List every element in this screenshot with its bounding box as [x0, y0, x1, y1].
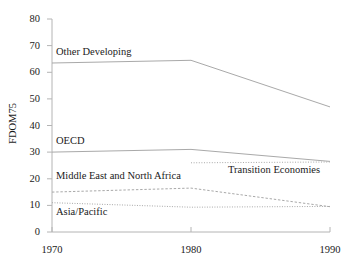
- line-chart: FDOM75 80 70 60 50 40 30 20 10 0 1970 19…: [0, 0, 355, 267]
- series-line-oecd: [52, 149, 330, 161]
- y-tick-label-30: 30: [18, 147, 40, 158]
- series-line-middle-east-north-africa: [52, 188, 330, 207]
- y-tick-label-80: 80: [18, 14, 40, 25]
- y-tick-label-20: 20: [18, 174, 40, 185]
- x-tick-label-1990: 1990: [310, 245, 350, 256]
- y-tick-label-40: 40: [18, 121, 40, 132]
- x-axis-ticks: [52, 227, 330, 232]
- series-label-transition-economies: Transition Economies: [228, 165, 320, 176]
- y-tick-label-0: 0: [18, 227, 40, 238]
- series-line-transition-economies: [191, 162, 330, 163]
- series-line-other-developing: [52, 60, 330, 107]
- x-tick-label-1970: 1970: [32, 245, 72, 256]
- y-tick-label-10: 10: [18, 200, 40, 211]
- series-label-middle-east-north-africa: Middle East and North Africa: [56, 171, 181, 182]
- y-tick-label-60: 60: [18, 67, 40, 78]
- series-label-oecd: OECD: [56, 136, 85, 147]
- series-label-other-developing: Other Developing: [56, 47, 132, 58]
- y-axis-title: FDOM75: [7, 94, 18, 154]
- y-tick-label-70: 70: [18, 41, 40, 52]
- chart-plot-area: [0, 0, 355, 267]
- series-label-asia-pacific: Asia/Pacific: [56, 207, 107, 218]
- y-axis-ticks: [47, 19, 52, 232]
- y-tick-label-50: 50: [18, 94, 40, 105]
- x-tick-label-1980: 1980: [171, 245, 211, 256]
